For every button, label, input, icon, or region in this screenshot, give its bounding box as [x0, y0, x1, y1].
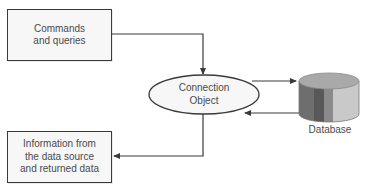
commands-line-2: and queries — [33, 35, 85, 48]
database-label: Database — [300, 124, 360, 136]
edge-connection-to-info — [114, 114, 203, 156]
database-cylinder-icon — [299, 73, 359, 124]
information-returned-data-node: Information from the data source and ret… — [7, 131, 112, 183]
info-line-1: Information from — [20, 138, 99, 151]
info-line-2: the data source — [20, 151, 99, 164]
info-line-3: and returned data — [20, 163, 99, 176]
commands-and-queries-node: Commands and queries — [7, 9, 112, 61]
connection-object-node — [149, 75, 259, 114]
commands-line-1: Commands — [33, 23, 85, 36]
edge-commands-to-connection — [112, 34, 203, 74]
